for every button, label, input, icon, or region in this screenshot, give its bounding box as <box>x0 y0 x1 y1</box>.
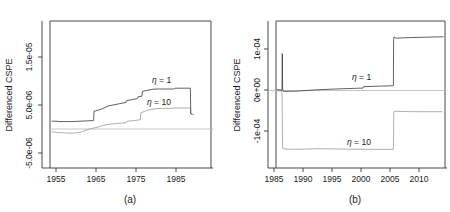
panel-a-caption: (a) <box>124 194 136 205</box>
panel-b-ylabel: Differenced CSPE <box>232 59 242 132</box>
panel-b-ytick-label-1: 0e+00 <box>252 78 262 102</box>
panel-b-xtick-label-2: 1995 <box>323 174 342 184</box>
panel-a-ytick-label-0: -5.0e-06 <box>24 137 34 169</box>
panel-a-xtick-label-1: 1965 <box>87 174 106 184</box>
panel-b-ytick-label-0: -1e-04 <box>252 118 262 143</box>
panel-b-ytick-label-2: 1e-04 <box>252 38 262 60</box>
panel-b-label-eta-1: η = 1 <box>352 72 371 82</box>
panel-a-label-eta-10: η = 10 <box>147 97 171 107</box>
figure-container: Differenced CSPE -5.0e-06 5.0e-06 1.5e-0… <box>0 0 450 212</box>
two-panel-line-chart: Differenced CSPE -5.0e-06 5.0e-06 1.5e-0… <box>0 0 450 212</box>
panel-b-xtick-label-3: 2000 <box>352 174 371 184</box>
panel-a-ytick-labels: -5.0e-06 5.0e-06 1.5e-05 <box>24 42 34 169</box>
panel-b-xtick-label-1: 1990 <box>294 174 313 184</box>
panel-a-ytick-label-2: 1.5e-05 <box>24 42 34 71</box>
panel-b-xtick-label-5: 2010 <box>410 174 429 184</box>
panel-a-ytick-label-1: 5.0e-06 <box>24 90 34 119</box>
panel-a-ylabel: Differenced CSPE <box>4 59 14 132</box>
panel-b-xtick-label-4: 2005 <box>381 174 400 184</box>
panel-b-caption: (b) <box>349 194 361 205</box>
panel-a-label-eta-1: η = 1 <box>152 75 171 85</box>
panel-b-ytick-labels: -1e-04 0e+00 1e-04 <box>252 38 262 143</box>
panel-a-xtick-label-3: 1985 <box>167 174 186 184</box>
panel-b-label-eta-10: η = 10 <box>347 137 371 147</box>
panel-b-xtick-label-0: 1985 <box>265 174 284 184</box>
panel-a-xtick-label-2: 1975 <box>127 174 146 184</box>
panel-a-xtick-label-0: 1955 <box>47 174 66 184</box>
